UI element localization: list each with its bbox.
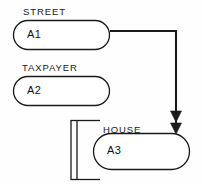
node-id-a1: A1	[27, 29, 41, 40]
entity-label-street: STREET	[23, 7, 66, 17]
entity-label-taxpayer: TAXPAYER	[22, 63, 78, 73]
entity-label-house: HOUSE	[103, 125, 141, 135]
connector-a1-to-a3	[110, 31, 176, 132]
arrowhead-icon-upper	[171, 111, 182, 122]
diagram-canvas: STREET TAXPAYER HOUSE A1 A2 A3	[0, 0, 203, 186]
node-id-a3: A3	[107, 145, 121, 156]
arrowhead-icon-lower	[171, 123, 182, 134]
node-id-a2: A2	[27, 85, 41, 96]
